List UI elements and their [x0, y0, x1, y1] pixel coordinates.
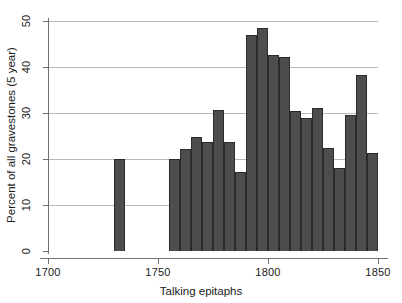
y-tick-label: 20 — [20, 153, 32, 166]
y-tick-20 — [43, 159, 48, 160]
y-tick-label: 50 — [20, 15, 32, 28]
gridline-50 — [48, 21, 378, 22]
bar — [367, 153, 378, 251]
bar — [114, 159, 125, 251]
gridline-40 — [48, 67, 378, 68]
y-tick-label: 40 — [20, 61, 32, 74]
bar — [180, 149, 191, 251]
x-tick-label: 1700 — [35, 266, 60, 278]
bar — [246, 35, 257, 251]
bar — [345, 115, 356, 251]
x-tick-1800 — [268, 259, 269, 264]
bar — [290, 111, 301, 251]
bar — [356, 75, 367, 251]
y-tick-40 — [43, 67, 48, 68]
bar — [323, 148, 334, 252]
y-tick-50 — [43, 21, 48, 22]
x-axis-title: Talking epitaphs — [0, 285, 402, 297]
x-tick-1700 — [48, 259, 49, 264]
y-tick-label: 0 — [20, 248, 32, 254]
bar — [312, 108, 323, 251]
bar — [279, 57, 290, 251]
x-tick-1850 — [378, 259, 379, 264]
bar — [235, 172, 246, 251]
x-tick-1750 — [158, 259, 159, 264]
bar — [268, 55, 279, 251]
y-axis-title: Percent of all gravestones (5 year) — [3, 20, 19, 250]
bar — [169, 159, 180, 251]
plot-area — [48, 21, 378, 251]
bar — [191, 137, 202, 251]
y-tick-0 — [43, 251, 48, 252]
x-tick-label: 1800 — [255, 266, 280, 278]
histogram-figure: 1700175018001850 01020304050 Talking epi… — [0, 0, 402, 303]
bar — [334, 168, 345, 251]
y-tick-10 — [43, 205, 48, 206]
bar — [301, 118, 312, 251]
y-tick-30 — [43, 113, 48, 114]
bar — [224, 142, 235, 251]
y-tick-label: 10 — [20, 199, 32, 212]
y-axis-line — [48, 18, 49, 254]
x-axis-line — [40, 258, 388, 259]
bar — [202, 142, 213, 251]
gridline-0 — [48, 251, 378, 252]
x-tick-label: 1850 — [365, 266, 390, 278]
bar — [257, 28, 268, 251]
x-tick-label: 1750 — [145, 266, 170, 278]
bar — [213, 110, 224, 251]
y-tick-label: 30 — [20, 107, 32, 120]
